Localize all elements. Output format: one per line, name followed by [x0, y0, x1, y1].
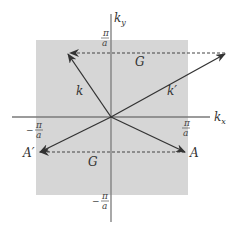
k-prime-label: k′ [167, 84, 177, 98]
A-prime-label: A′ [22, 146, 35, 160]
svg-text:−: − [92, 196, 100, 206]
G-bottom-label: G [88, 155, 98, 169]
svg-text:a: a [102, 38, 107, 48]
svg-text:π: π [101, 191, 109, 201]
svg-text:a: a [183, 128, 188, 138]
kx-label: kx [214, 110, 226, 126]
G-top-label: G [135, 55, 145, 69]
tick-right-pi-over-a: π a [182, 118, 191, 138]
svg-text:π: π [35, 120, 43, 130]
svg-text:a: a [36, 130, 41, 140]
svg-text:π: π [183, 118, 191, 128]
brillouin-zone-diagram: ky kx π a π a − π a − π a k k′ G G A A′ [0, 0, 239, 228]
svg-text:a: a [102, 201, 107, 211]
svg-text:π: π [102, 28, 110, 38]
k-label: k [76, 84, 83, 98]
ky-label: ky [114, 11, 126, 27]
tick-left-minus-pi-over-a: − π a [26, 120, 43, 140]
A-label: A [189, 146, 199, 160]
svg-text:−: − [26, 125, 34, 135]
